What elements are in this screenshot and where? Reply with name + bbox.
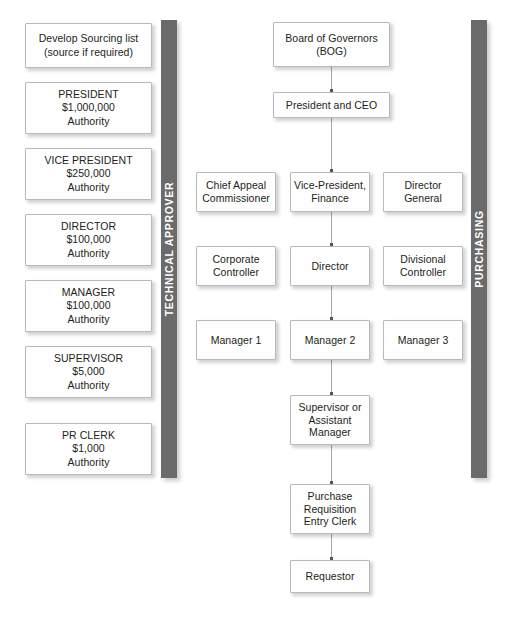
technical-approver-bar: TECHNICAL APPROVER: [161, 20, 177, 478]
purchasing-bar-label: PURCHASING: [473, 210, 485, 288]
authority-box-manager-authority[interactable]: MANAGER $100,000 Authority: [25, 280, 152, 332]
org-box-board-of-governors[interactable]: Board of Governors (BOG): [273, 22, 390, 67]
org-box-manager-1[interactable]: Manager 1: [196, 320, 276, 360]
org-box-corporate-controller[interactable]: Corporate Controller: [196, 246, 276, 286]
org-box-director-general[interactable]: Director General: [383, 172, 463, 212]
org-box-supervisor-or-assistant-manager-label: Supervisor or Assistant Manager: [295, 401, 364, 439]
authority-box-develop-sourcing-list-label: Develop Sourcing list (source if require…: [36, 32, 142, 58]
authority-box-supervisor-authority[interactable]: SUPERVISOR $5,000 Authority: [25, 346, 152, 398]
org-box-requestor[interactable]: Requestor: [290, 560, 370, 593]
org-box-divisional-controller[interactable]: Divisional Controller: [383, 246, 463, 286]
org-box-manager-2[interactable]: Manager 2: [290, 320, 370, 360]
conn-director-to-manager-2: [331, 286, 332, 320]
org-box-corporate-controller-label: Corporate Controller: [209, 253, 262, 278]
org-box-purchase-requisition-entry-clerk[interactable]: Purchase Requisition Entry Clerk: [290, 484, 370, 534]
org-box-chief-appeal-commissioner[interactable]: Chief Appeal Commissioner: [196, 172, 276, 212]
technical-approver-bar-label: TECHNICAL APPROVER: [163, 182, 175, 317]
conn-ceo-to-vp-finance: [331, 118, 332, 172]
org-box-director-general-label: Director General: [401, 179, 445, 204]
flowchart-canvas: Develop Sourcing list (source if require…: [0, 0, 525, 622]
authority-box-director-authority-label: DIRECTOR $100,000 Authority: [58, 220, 119, 260]
purchasing-bar: PURCHASING: [471, 20, 487, 478]
authority-box-vice-president-authority[interactable]: VICE PRESIDENT $250,000 Authority: [25, 148, 152, 200]
authority-box-director-authority[interactable]: DIRECTOR $100,000 Authority: [25, 214, 152, 266]
org-box-president-and-ceo[interactable]: President and CEO: [273, 92, 390, 118]
authority-box-pr-clerk-authority[interactable]: PR CLERK $1,000 Authority: [25, 423, 152, 475]
authority-box-president-authority[interactable]: PRESIDENT $1,000,000 Authority: [25, 82, 152, 134]
org-box-vice-president-finance-label: Vice-President, Finance: [291, 179, 369, 204]
org-box-manager-2-label: Manager 2: [302, 334, 359, 347]
org-box-chief-appeal-commissioner-label: Chief Appeal Commissioner: [199, 179, 273, 204]
org-box-requestor-label: Requestor: [303, 570, 358, 583]
conn-supervisor-to-pr-clerk: [331, 445, 332, 484]
authority-box-develop-sourcing-list[interactable]: Develop Sourcing list (source if require…: [25, 23, 152, 68]
org-box-director-label: Director: [308, 260, 351, 273]
org-box-manager-3[interactable]: Manager 3: [383, 320, 463, 360]
org-box-divisional-controller-label: Divisional Controller: [397, 253, 449, 278]
org-box-vice-president-finance[interactable]: Vice-President, Finance: [290, 172, 370, 212]
authority-box-vice-president-authority-label: VICE PRESIDENT $250,000 Authority: [41, 154, 135, 194]
org-box-director[interactable]: Director: [290, 246, 370, 286]
conn-vp-finance-to-director: [331, 212, 332, 246]
authority-box-president-authority-label: PRESIDENT $1,000,000 Authority: [55, 88, 122, 128]
authority-box-pr-clerk-authority-label: PR CLERK $1,000 Authority: [59, 429, 118, 469]
org-box-board-of-governors-label: Board of Governors (BOG): [282, 32, 381, 57]
org-box-manager-1-label: Manager 1: [208, 334, 265, 347]
org-box-president-and-ceo-label: President and CEO: [283, 99, 380, 112]
org-box-supervisor-or-assistant-manager[interactable]: Supervisor or Assistant Manager: [290, 395, 370, 445]
org-box-purchase-requisition-entry-clerk-label: Purchase Requisition Entry Clerk: [301, 490, 360, 528]
authority-box-manager-authority-label: MANAGER $100,000 Authority: [59, 286, 118, 326]
conn-manager-2-to-supervisor: [331, 360, 332, 395]
org-box-manager-3-label: Manager 3: [395, 334, 452, 347]
authority-box-supervisor-authority-label: SUPERVISOR $5,000 Authority: [51, 352, 126, 392]
